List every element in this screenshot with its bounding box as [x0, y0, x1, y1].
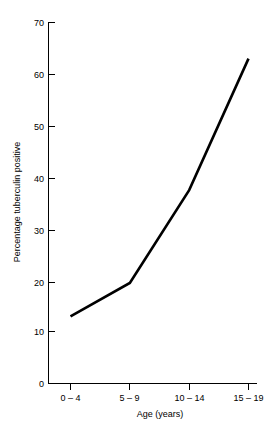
y-tick-label-20: 20: [34, 278, 44, 288]
line-chart: 70 60 50 40 30 20 10 0 0 – 4 5 – 9 10 – …: [0, 0, 266, 425]
y-tick-label-40: 40: [34, 174, 44, 184]
chart-background: [0, 0, 266, 425]
x-tick-label-5-9: 5 – 9: [119, 393, 139, 403]
x-axis-title: Age (years): [137, 409, 184, 419]
y-tick-label-60: 60: [34, 70, 44, 80]
x-tick-label-10-14: 10 – 14: [174, 393, 204, 403]
y-tick-label-50: 50: [34, 122, 44, 132]
y-tick-label-70: 70: [34, 18, 44, 28]
x-tick-label-15-19: 15 – 19: [233, 393, 263, 403]
y-tick-label-0: 0: [39, 379, 44, 389]
y-tick-label-30: 30: [34, 226, 44, 236]
y-tick-label-10: 10: [34, 327, 44, 337]
y-axis-title: Percentage tuberculin positive: [12, 142, 22, 263]
chart-figure: 70 60 50 40 30 20 10 0 0 – 4 5 – 9 10 – …: [0, 0, 266, 425]
x-tick-label-0-4: 0 – 4: [60, 393, 80, 403]
